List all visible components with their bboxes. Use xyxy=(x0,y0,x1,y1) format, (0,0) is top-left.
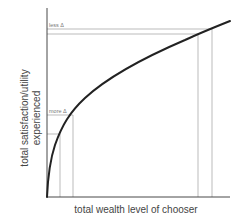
annotation-less-delta: less Δ xyxy=(49,22,64,28)
axes xyxy=(47,8,230,197)
utility-curve xyxy=(47,21,230,197)
utility-chart: more Δ less Δ total wealth level of choo… xyxy=(0,0,245,223)
guide-lines-more-delta xyxy=(47,115,73,197)
annotation-more-delta: more Δ xyxy=(49,108,67,114)
x-axis-title: total wealth level of chooser xyxy=(74,204,198,215)
y-axis-title-line2: experienced xyxy=(31,91,42,145)
y-axis-title-line1: total satisfaction/utility xyxy=(19,69,30,166)
